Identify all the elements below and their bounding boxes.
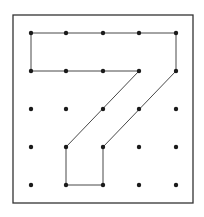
peg-dot [174,31,178,35]
peg-dot [64,183,68,187]
peg-dot [101,31,105,35]
peg-dot [29,183,33,187]
peg-dot [174,183,178,187]
peg-dot [101,183,105,187]
peg-dot [29,31,33,35]
peg-dot [101,107,105,111]
peg-dot [101,145,105,149]
peg-dot [29,107,33,111]
peg-dot [29,69,33,73]
peg-dot [29,145,33,149]
peg-dot [174,145,178,149]
peg-dot [137,183,141,187]
peg-dot [137,145,141,149]
peg-dot [137,69,141,73]
peg-grid [29,31,178,187]
peg-dot [137,31,141,35]
peg-dot [64,69,68,73]
peg-dot [64,107,68,111]
peg-dot [174,69,178,73]
peg-dot [174,107,178,111]
peg-dot [64,145,68,149]
peg-dot [137,107,141,111]
peg-dot [101,69,105,73]
geoboard-diagram [0,0,204,217]
peg-dot [64,31,68,35]
